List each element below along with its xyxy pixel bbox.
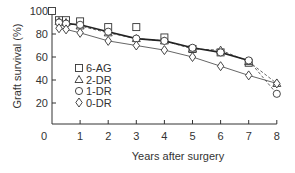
x-axis-label: Years after surgery [132,150,225,162]
diamond-marker [189,53,195,62]
square-marker [76,65,83,72]
legend-item-1-dr: 1-DR [75,85,111,97]
circle-marker [273,90,280,97]
legend-label: 0-DR [86,97,112,109]
y-tick-label: 20 [36,97,48,109]
x-tick-label: 2 [105,130,111,142]
x-tick-label: 4 [161,130,167,142]
diamond-marker [217,62,223,71]
legend-item-6-ag: 6-AG [76,62,112,74]
y-tick-label: 100 [30,5,48,17]
x-tick-label: 0 [41,130,47,142]
x-tick-label: 7 [246,130,252,142]
x-tick-label: 1 [77,130,83,142]
series-6-ag-markers [49,8,253,67]
circle-marker [105,28,112,35]
diamond-marker [161,46,167,55]
y-tick-label: 80 [36,28,48,40]
diamond-marker [105,36,111,45]
graft-survival-chart: 20406080100012345678 6-AG2-DR1-DR0-DR Ye… [0,0,295,173]
circle-marker [189,44,196,51]
square-marker [133,24,140,31]
x-tick-label: 5 [189,130,195,142]
x-tick-label: 3 [133,130,139,142]
y-tick-label: 40 [36,74,48,86]
triangle-marker [75,76,83,83]
data-series [49,8,281,98]
circle-marker [161,37,168,44]
y-tick-label: 60 [36,51,48,63]
legend-item-2-dr: 2-DR [75,74,112,86]
legend-item-0-dr: 0-DR [76,97,112,109]
diamond-marker [76,98,82,107]
diamond-marker [77,28,83,37]
y-axis-label: Graft survival (%) [11,24,23,109]
circle-marker [77,21,84,28]
square-marker [49,8,56,15]
legend: 6-AG2-DR1-DR0-DR [75,62,112,109]
circle-marker [245,57,252,64]
circle-marker [217,49,224,56]
legend-label: 2-DR [86,74,112,86]
x-tick-label: 6 [218,130,224,142]
circle-marker [75,87,82,94]
legend-label: 6-AG [86,62,112,74]
diamond-marker [246,71,252,80]
x-tick-label: 8 [274,130,280,142]
diamond-marker [133,41,139,50]
legend-label: 1-DR [86,85,112,97]
